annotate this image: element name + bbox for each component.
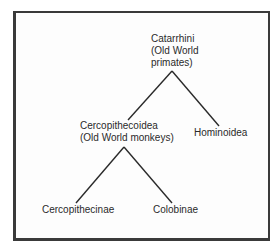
node-hominoidea: Hominoidea [194,127,247,139]
node-label-line: (Old World monkeys) [80,132,174,144]
node-label-line: Cercopithecinae [42,204,114,216]
node-catarrhini: Catarrhini (Old World primates) [151,33,199,69]
node-label-line: Hominoidea [194,127,247,139]
edge-catarrhini-cercopithecoidea [128,71,172,120]
node-label-line: Cercopithecoidea [80,120,174,132]
node-label-line: (Old World [151,45,199,57]
node-label-line: Catarrhini [151,33,199,45]
node-label-line: primates) [151,57,199,69]
node-cercopithecoidea: Cercopithecoidea (Old World monkeys) [80,120,174,144]
node-colobinae: Colobinae [153,204,198,216]
node-label-line: Colobinae [153,204,198,216]
node-cercopithecinae: Cercopithecinae [42,204,114,216]
edge-catarrhini-hominoidea [172,71,219,126]
edge-cercopithecoidea-colobinae [124,147,172,203]
edge-cercopithecoidea-cercopithecinae [76,147,124,203]
